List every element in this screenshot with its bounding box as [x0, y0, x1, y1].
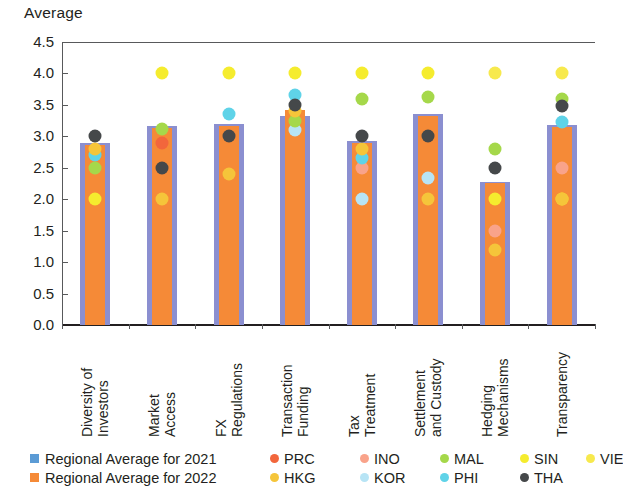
legend-circle-icon	[270, 454, 279, 463]
category-label: Settlementand Custody	[412, 358, 444, 437]
category-label-line: Diversity of	[79, 368, 95, 437]
x-axis-tick-mark	[195, 324, 196, 329]
x-axis-tick-mark	[462, 324, 463, 329]
x-axis-tick-mark	[528, 324, 529, 329]
scatter-point-mal	[489, 142, 502, 155]
legend-item-regional-average-for-2021[interactable]: Regional Average for 2021	[30, 451, 216, 467]
y-axis-tick-label: 4.5	[10, 33, 54, 50]
scatter-point-phi	[555, 116, 568, 129]
y-axis-tick-mark	[63, 136, 68, 137]
x-axis-tick-mark	[329, 324, 330, 329]
legend-square-icon	[30, 454, 39, 463]
scatter-point-tha	[289, 98, 302, 111]
scatter-point-tha	[489, 161, 502, 174]
scatter-point-sin	[89, 193, 102, 206]
category-label-line: Hedging	[479, 358, 495, 437]
category-label-line: Market	[146, 392, 162, 437]
scatter-point-vie	[555, 67, 568, 80]
legend-label: PRC	[284, 451, 315, 467]
category-label-line: FX	[213, 363, 229, 437]
category-label: Transparency	[554, 352, 570, 437]
category-label: TaxTreatment	[346, 374, 378, 437]
scatter-point-tha	[155, 161, 168, 174]
legend-item-prc[interactable]: PRC	[270, 451, 315, 467]
scatter-point-sin	[489, 193, 502, 206]
x-axis-tick-mark	[62, 324, 63, 329]
y-axis-tick-label: 4.0	[10, 64, 54, 81]
scatter-point-hkg	[155, 193, 168, 206]
legend-circle-icon	[586, 454, 595, 463]
legend-label: Regional Average for 2022	[45, 470, 216, 486]
scatter-point-mal	[155, 122, 168, 135]
y-axis-tick-mark	[63, 294, 68, 295]
y-axis-tick-label: 2.5	[10, 159, 54, 176]
plot-top-border	[62, 42, 595, 43]
legend-item-hkg[interactable]: HKG	[270, 470, 315, 486]
scatter-point-hkg	[555, 193, 568, 206]
category-label-line: Access	[162, 392, 178, 437]
legend-item-ino[interactable]: INO	[360, 451, 400, 467]
legend-circle-icon	[360, 454, 369, 463]
bar-2022	[418, 116, 438, 325]
bar-2022	[219, 126, 239, 325]
scatter-point-sin	[155, 67, 168, 80]
plot-left-border	[62, 42, 63, 325]
category-label-line: Transaction	[279, 364, 295, 437]
legend-label: Regional Average for 2021	[45, 451, 216, 467]
category-label: MarketAccess	[146, 392, 178, 437]
legend-circle-icon	[520, 473, 529, 482]
x-axis-tick-mark	[129, 324, 130, 329]
category-label-line: Treatment	[362, 374, 378, 437]
bar-2022	[552, 127, 572, 325]
legend-item-sin[interactable]: SIN	[520, 451, 558, 467]
scatter-point-hkg	[89, 142, 102, 155]
bar-2022	[285, 110, 305, 325]
scatter-point-ino	[555, 161, 568, 174]
scatter-point-hkg	[489, 243, 502, 256]
y-axis-tick-label: 0.5	[10, 285, 54, 302]
legend-item-kor[interactable]: KOR	[360, 470, 405, 486]
scatter-point-phi	[222, 108, 235, 121]
category-label-line: Regulations	[229, 363, 245, 437]
legend-item-tha[interactable]: THA	[520, 470, 563, 486]
scatter-point-tha	[555, 100, 568, 113]
legend-item-vie[interactable]: VIE	[586, 451, 623, 467]
y-axis-tick-mark	[63, 168, 68, 169]
scatter-point-hkg	[422, 193, 435, 206]
x-axis-tick-mark	[395, 324, 396, 329]
scatter-point-tha	[222, 130, 235, 143]
category-label: Diversity ofInvestors	[79, 368, 111, 437]
scatter-point-mal	[422, 90, 435, 103]
category-label: HedgingMechanisms	[479, 358, 511, 437]
category-label-line: Settlement	[412, 358, 428, 437]
category-label: TransactionFunding	[279, 364, 311, 437]
scatter-point-tha	[355, 130, 368, 143]
category-label-line: and Custody	[428, 358, 444, 437]
legend-item-regional-average-for-2022[interactable]: Regional Average for 2022	[30, 470, 216, 486]
scatter-point-prc	[155, 136, 168, 149]
legend-label: MAL	[454, 451, 484, 467]
scatter-point-tha	[89, 130, 102, 143]
scatter-point-sin	[422, 67, 435, 80]
category-label-line: Tax	[346, 374, 362, 437]
legend-label: VIE	[600, 451, 623, 467]
scatter-point-sin	[289, 67, 302, 80]
legend-label: KOR	[374, 470, 405, 486]
scatter-point-mal	[89, 161, 102, 174]
scatter-point-hkg	[222, 168, 235, 181]
legend-circle-icon	[440, 454, 449, 463]
category-label-line: Investors	[95, 368, 111, 437]
legend-label: SIN	[534, 451, 558, 467]
legend-item-phi[interactable]: PHI	[440, 470, 478, 486]
scatter-point-vie	[489, 67, 502, 80]
y-axis-title: Average	[24, 4, 83, 22]
x-axis-tick-mark	[262, 324, 263, 329]
y-axis-tick-label: 3.0	[10, 127, 54, 144]
legend-circle-icon	[360, 473, 369, 482]
legend-circle-icon	[520, 454, 529, 463]
y-axis-tick-label: 1.5	[10, 222, 54, 239]
category-label-line: Transparency	[554, 352, 570, 437]
category-label-line: Mechanisms	[495, 358, 511, 437]
legend-item-mal[interactable]: MAL	[440, 451, 484, 467]
